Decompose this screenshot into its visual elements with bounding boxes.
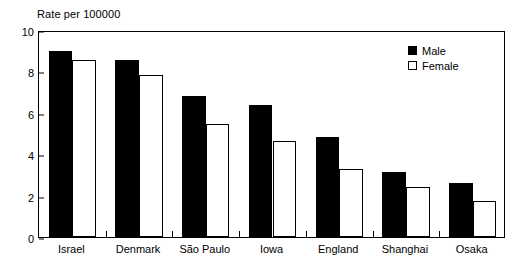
y-tick-mark <box>39 73 44 74</box>
y-tick-label: 4 <box>28 150 34 162</box>
bar-são-paulo-male <box>182 96 206 237</box>
bar-osaka-female <box>473 201 497 237</box>
y-tick-mark <box>39 197 44 198</box>
y-tick-label: 8 <box>28 67 34 79</box>
x-tick-label-denmark: Denmark <box>116 243 161 255</box>
bar-shanghai-female <box>406 187 430 237</box>
legend-label-male: Male <box>422 45 446 57</box>
y-tick-mark <box>39 114 44 115</box>
legend-item-male[interactable]: Male <box>408 43 459 58</box>
bar-iowa-female <box>273 141 297 237</box>
bar-chart: Rate per 100000 0246810 IsraelDenmarkSão… <box>0 0 529 273</box>
x-tick-mark <box>439 231 440 237</box>
y-tick-label: 0 <box>28 233 34 245</box>
bar-osaka-male <box>449 183 473 237</box>
x-tick-label-são-paulo: São Paulo <box>179 243 230 255</box>
y-tick-mark <box>39 156 44 157</box>
legend-label-female: Female <box>422 60 459 72</box>
y-tick-mark <box>39 32 44 33</box>
x-tick-label-shanghai: Shanghai <box>382 243 429 255</box>
chart-axis-title: Rate per 100000 <box>37 8 120 20</box>
y-tick-mark <box>39 239 44 240</box>
x-tick-mark <box>106 231 107 237</box>
legend-swatch-male-icon <box>408 46 417 55</box>
x-tick-mark <box>239 231 240 237</box>
bar-israel-female <box>72 60 96 237</box>
bar-israel-male <box>49 51 73 237</box>
bar-denmark-female <box>139 75 163 237</box>
x-tick-label-england: England <box>318 243 358 255</box>
legend-swatch-female-icon <box>408 61 417 70</box>
legend-item-female[interactable]: Female <box>408 58 459 73</box>
x-tick-label-iowa: Iowa <box>260 243 283 255</box>
x-tick-mark <box>373 231 374 237</box>
x-tick-label-osaka: Osaka <box>456 243 488 255</box>
y-tick-label: 2 <box>28 192 34 204</box>
bar-são-paulo-female <box>206 124 230 237</box>
chart-legend: Male Female <box>408 43 459 73</box>
bar-england-male <box>316 137 340 237</box>
bar-iowa-male <box>249 105 273 237</box>
bar-england-female <box>339 169 363 237</box>
bar-shanghai-male <box>382 172 406 237</box>
x-tick-label-israel: Israel <box>58 243 85 255</box>
y-tick-label: 6 <box>28 109 34 121</box>
x-tick-mark <box>306 231 307 237</box>
x-tick-mark <box>172 231 173 237</box>
y-tick-label: 10 <box>22 26 34 38</box>
bar-denmark-male <box>115 60 139 237</box>
